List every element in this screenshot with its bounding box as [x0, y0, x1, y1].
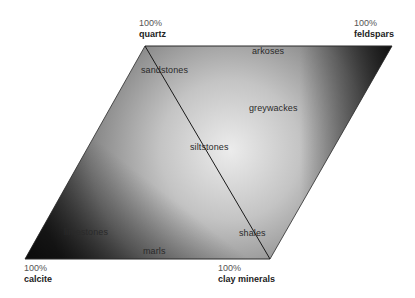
region-greywackes: greywackes [249, 103, 298, 113]
corner-clay-percent: 100% [218, 263, 275, 274]
corner-clay-minerals: 100% clay minerals [218, 263, 275, 285]
corner-calcite: 100% calcite [24, 263, 52, 285]
region-sandstones: sandstones [141, 65, 188, 75]
corner-feldspars-percent: 100% [354, 18, 394, 29]
region-siltstones: siltstones [190, 142, 229, 152]
corner-quartz: 100% quartz [139, 18, 166, 40]
region-marls: marls [143, 246, 166, 256]
region-shales: shales [239, 228, 266, 238]
region-arkoses: arkoses [252, 46, 284, 56]
corner-feldspars-label: feldspars [354, 29, 394, 40]
corner-quartz-percent: 100% [139, 18, 166, 29]
corner-quartz-label: quartz [139, 29, 166, 40]
region-limestones: limestones [64, 227, 108, 237]
corner-calcite-percent: 100% [24, 263, 52, 274]
corner-clay-label: clay minerals [218, 274, 275, 285]
corner-calcite-label: calcite [24, 274, 52, 285]
corner-feldspars: 100% feldspars [354, 18, 394, 40]
